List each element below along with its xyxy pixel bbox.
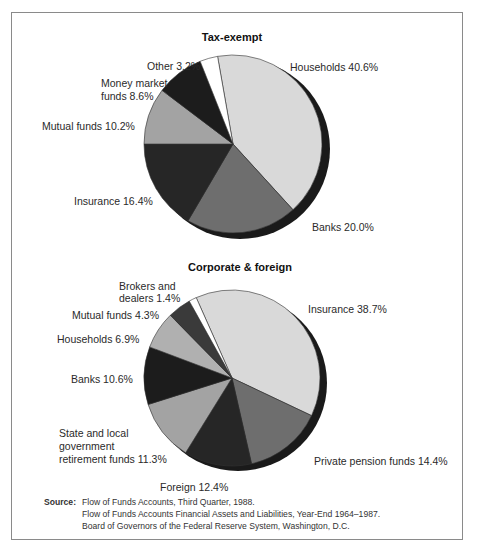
label-insurance: Insurance 16.4% (74, 195, 153, 207)
label-brokers-2: dealers 1.4% (119, 292, 180, 304)
label-banks: Banks 20.0% (312, 221, 374, 233)
label-state-local-2: government (59, 440, 115, 452)
top-pie (144, 55, 330, 239)
label-mutual-funds: Mutual funds 10.2% (42, 120, 135, 132)
label-brokers-1: Brokers and (119, 280, 176, 292)
label-mutual-funds-cf: Mutual funds 4.3% (72, 309, 159, 321)
label-money-market-1: Money market (101, 77, 168, 89)
label-insurance-cf: Insurance 38.7% (308, 303, 387, 315)
source-line-1: Flow of Funds Accounts, Third Quarter, 1… (82, 497, 255, 507)
label-state-local-1: State and local (59, 427, 128, 439)
label-households-cf: Households 6.9% (57, 333, 139, 345)
bottom-pie (144, 290, 327, 471)
label-households: Households 40.6% (290, 61, 378, 73)
label-foreign: Foreign 12.4% (160, 481, 228, 493)
source-key: Source: (44, 496, 82, 508)
label-state-local-3: retirement funds 11.3% (59, 453, 167, 465)
label-banks-cf: Banks 10.6% (71, 373, 133, 385)
label-money-market-2: funds 8.6% (101, 90, 154, 102)
source-note: Source:Flow of Funds Accounts, Third Qua… (44, 496, 380, 532)
source-line-3: Board of Governors of the Federal Reserv… (44, 520, 380, 532)
bottom-chart-title: Corporate & foreign (188, 261, 292, 273)
pie-charts: Tax-exempt Other 3.2% Money market funds… (0, 0, 478, 549)
label-private-pension: Private pension funds 14.4% (314, 455, 448, 467)
label-other: Other 3.2% (147, 60, 200, 72)
source-line-2: Flow of Funds Accounts Financial Assets … (44, 508, 380, 520)
top-chart-title: Tax-exempt (202, 31, 263, 43)
